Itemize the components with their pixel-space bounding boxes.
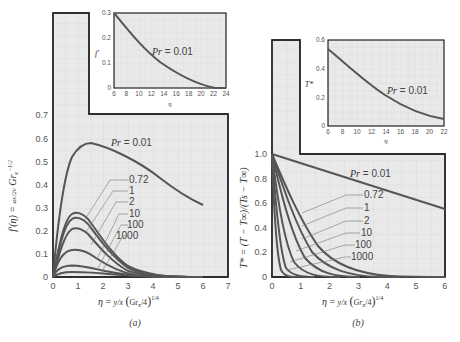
svg-text:0.8: 0.8 bbox=[254, 174, 267, 184]
caption-a: (a) bbox=[129, 317, 141, 329]
label-b-0.72: 0.72 bbox=[364, 189, 384, 200]
svg-text:0.6: 0.6 bbox=[254, 198, 267, 208]
svg-text:0: 0 bbox=[321, 122, 325, 129]
plot-a-x-label: η = y/x (Grx/4)1/4 bbox=[98, 294, 159, 308]
svg-text:Pr = 0.01: Pr = 0.01 bbox=[386, 85, 428, 96]
svg-text:22: 22 bbox=[210, 90, 218, 97]
panel-a: 0 0.1 0.2 0.3 0.4 0.5 0.6 0.7 0 1 2 3 4 … bbox=[7, 9, 231, 329]
svg-text:Pr = 0.01: Pr = 0.01 bbox=[151, 46, 193, 57]
svg-text:1: 1 bbox=[75, 281, 80, 291]
svg-text:16: 16 bbox=[173, 90, 181, 97]
svg-text:6: 6 bbox=[442, 281, 447, 291]
svg-text:0.6: 0.6 bbox=[35, 134, 48, 144]
svg-text:η = y/x (Grx/4)1/4: η = y/x (Grx/4)1/4 bbox=[322, 294, 383, 308]
svg-text:Pr = 0.01: Pr = 0.01 bbox=[349, 168, 391, 179]
svg-text:4: 4 bbox=[385, 281, 390, 291]
svg-text:10: 10 bbox=[353, 128, 361, 135]
svg-text:24: 24 bbox=[222, 90, 230, 97]
svg-text:1.0: 1.0 bbox=[254, 149, 267, 159]
svg-text:0.7: 0.7 bbox=[35, 110, 48, 120]
label-0.72: 0.72 bbox=[129, 174, 149, 185]
svg-text:18: 18 bbox=[411, 128, 419, 135]
plot-b-y-ticks: 0 0.2 0.4 0.6 0.8 1.0 bbox=[254, 149, 267, 282]
panel-b: 0 0.2 0.4 0.6 0.8 1.0 0 1 2 3 4 5 6 bbox=[238, 36, 448, 329]
svg-text:6: 6 bbox=[112, 90, 116, 97]
svg-text:14: 14 bbox=[382, 128, 390, 135]
svg-text:4: 4 bbox=[150, 281, 155, 291]
svg-text:0.2: 0.2 bbox=[35, 226, 48, 236]
svg-text:0.6: 0.6 bbox=[316, 36, 325, 43]
inset-a: 0.3 0.2 0.1 0 6 8 10 12 14 16 18 20 22 2… bbox=[95, 9, 230, 108]
svg-text:20: 20 bbox=[197, 90, 205, 97]
svg-text:0.2: 0.2 bbox=[102, 34, 111, 41]
svg-text:0.4: 0.4 bbox=[316, 65, 325, 72]
svg-text:22: 22 bbox=[440, 128, 448, 135]
svg-text:12: 12 bbox=[148, 90, 156, 97]
svg-text:η: η bbox=[168, 100, 172, 108]
svg-text:T*: T* bbox=[305, 80, 313, 89]
svg-text:1: 1 bbox=[298, 281, 303, 291]
svg-text:0.4: 0.4 bbox=[254, 223, 267, 233]
svg-text:6: 6 bbox=[200, 281, 205, 291]
label-2: 2 bbox=[129, 196, 135, 207]
svg-text:16: 16 bbox=[397, 128, 405, 135]
svg-text:0.1: 0.1 bbox=[102, 59, 111, 66]
plot-a-y-ticks: 0 0.1 0.2 0.3 0.4 0.5 0.6 0.7 bbox=[35, 110, 48, 282]
plot-b-x-label: η = y/x (Grx/4)1/4 bbox=[322, 294, 383, 308]
svg-text:0.2: 0.2 bbox=[316, 94, 325, 101]
caption-b: (b) bbox=[352, 317, 364, 329]
label-b-1: 1 bbox=[364, 202, 370, 213]
svg-text:12: 12 bbox=[368, 128, 376, 135]
svg-text:14: 14 bbox=[160, 90, 168, 97]
label-100: 100 bbox=[127, 219, 144, 230]
svg-text:5: 5 bbox=[175, 281, 180, 291]
svg-text:0.5: 0.5 bbox=[35, 157, 48, 167]
label-b-1000: 1000 bbox=[351, 251, 374, 262]
legend-pr-0.01-a: Pr = 0.01 bbox=[110, 137, 152, 148]
plot-a-y-label: f′(η) = ux/2ν Grx−1/2 bbox=[7, 160, 19, 232]
svg-text:0: 0 bbox=[262, 272, 267, 282]
svg-text:f′: f′ bbox=[95, 49, 99, 58]
svg-text:2: 2 bbox=[327, 281, 332, 291]
plot-a-x-ticks: 0 1 2 3 4 5 6 7 bbox=[50, 281, 230, 291]
svg-text:0: 0 bbox=[43, 272, 48, 282]
label-b-100: 100 bbox=[355, 239, 372, 250]
svg-text:0.3: 0.3 bbox=[35, 203, 48, 213]
svg-text:8: 8 bbox=[341, 128, 345, 135]
svg-text:5: 5 bbox=[413, 281, 418, 291]
plot-b-x-ticks: 0 1 2 3 4 5 6 bbox=[269, 281, 447, 291]
svg-text:3: 3 bbox=[125, 281, 130, 291]
label-1000: 1000 bbox=[116, 230, 139, 241]
svg-text:0.2: 0.2 bbox=[254, 247, 267, 257]
inset-b: 0.6 0.4 0.2 0 6 8 10 12 14 16 18 20 22 η… bbox=[305, 36, 448, 145]
svg-text:0: 0 bbox=[50, 281, 55, 291]
label-b-10: 10 bbox=[361, 227, 373, 238]
label-1: 1 bbox=[129, 185, 135, 196]
label-b-2: 2 bbox=[364, 215, 370, 226]
svg-text:T* = (T − T∞)/(Ts − T∞): T* = (T − T∞)/(Ts − T∞) bbox=[238, 167, 250, 269]
svg-text:3: 3 bbox=[356, 281, 361, 291]
svg-text:η = y/x (Grx/4)1/4: η = y/x (Grx/4)1/4 bbox=[98, 294, 159, 308]
svg-text:0: 0 bbox=[107, 84, 111, 91]
svg-text:10: 10 bbox=[135, 90, 143, 97]
svg-text:20: 20 bbox=[426, 128, 434, 135]
svg-text:0.3: 0.3 bbox=[102, 9, 111, 16]
svg-text:0: 0 bbox=[269, 281, 274, 291]
svg-text:0.4: 0.4 bbox=[35, 180, 48, 190]
svg-text:18: 18 bbox=[185, 90, 193, 97]
label-10: 10 bbox=[129, 208, 141, 219]
plot-b-y-label: T* = (T − T∞)/(Ts − T∞) bbox=[238, 167, 250, 269]
figure: 0 0.1 0.2 0.3 0.4 0.5 0.6 0.7 0 1 2 3 4 … bbox=[0, 0, 460, 342]
svg-text:0.1: 0.1 bbox=[35, 249, 48, 259]
svg-text:η: η bbox=[384, 137, 388, 145]
svg-text:f′(η) = ux/2ν Grx−1/2: f′(η) = ux/2ν Grx−1/2 bbox=[7, 160, 19, 232]
svg-text:6: 6 bbox=[326, 128, 330, 135]
svg-text:2: 2 bbox=[100, 281, 105, 291]
svg-text:8: 8 bbox=[125, 90, 129, 97]
svg-text:7: 7 bbox=[225, 281, 230, 291]
